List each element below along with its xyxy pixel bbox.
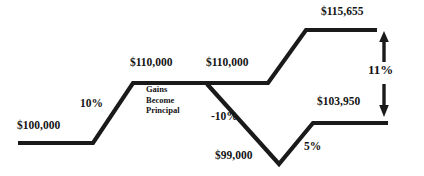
difference-arrow-down (379, 84, 389, 117)
difference-arrow-up (379, 31, 389, 62)
diagram-paths (0, 0, 424, 176)
diagram-canvas: $100,000 10% $110,000 Gains Become Princ… (0, 0, 424, 176)
label-recovery-percent: 5% (304, 140, 321, 152)
label-first-gain-percent: 10% (80, 97, 103, 109)
gains-note-line-1: Gains (146, 84, 180, 95)
label-low-value: $99,000 (215, 149, 252, 161)
upper-path-line (18, 30, 377, 143)
label-difference-percent: 11% (368, 63, 393, 77)
gains-note-line-3: Principal (146, 105, 180, 116)
label-lower-end-value: $103,950 (317, 95, 360, 107)
label-loss-percent: -10% (211, 110, 238, 122)
label-start-value: $100,000 (17, 119, 60, 131)
label-gains-become-principal: Gains Become Principal (146, 84, 180, 116)
label-branch-value: $110,000 (206, 56, 249, 68)
gains-note-line-2: Become (146, 95, 180, 106)
label-after-gain-value: $110,000 (130, 56, 173, 68)
label-upper-end-value: $115,655 (321, 5, 364, 17)
